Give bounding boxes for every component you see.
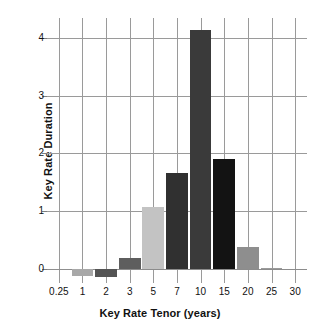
- bar: [95, 269, 117, 278]
- y-tick-label: 1: [22, 206, 44, 216]
- gridline-vertical: [130, 18, 131, 283]
- gridline-vertical: [106, 18, 107, 283]
- plot-area: [47, 18, 307, 283]
- y-tick-label: 0: [22, 264, 44, 274]
- gridline-vertical: [59, 18, 60, 283]
- bar: [72, 269, 94, 276]
- x-tick-label: 30: [281, 287, 309, 297]
- gridline-vertical: [82, 18, 83, 283]
- gridline-vertical: [272, 18, 273, 283]
- key-rate-duration-bar-chart: Key Rate Duration Key Rate Tenor (years)…: [0, 0, 320, 333]
- gridline-vertical: [295, 18, 296, 283]
- y-tick-label: 2: [22, 148, 44, 158]
- bar: [237, 247, 259, 268]
- bar: [213, 159, 235, 269]
- x-axis-title: Key Rate Tenor (years): [0, 307, 320, 319]
- bar: [48, 269, 70, 270]
- bar: [190, 30, 212, 269]
- y-tick-label: 4: [22, 33, 44, 43]
- bar: [119, 258, 141, 269]
- bar: [142, 207, 164, 269]
- bar: [261, 268, 283, 269]
- gridline-vertical: [248, 18, 249, 283]
- y-tick-label: 3: [22, 91, 44, 101]
- bar: [166, 173, 188, 269]
